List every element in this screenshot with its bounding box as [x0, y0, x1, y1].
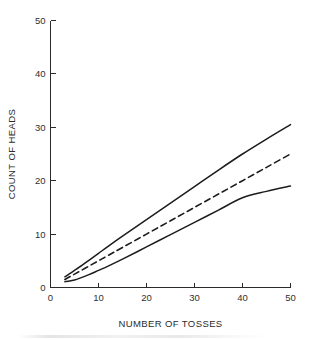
x-tick-label-10: 10 — [93, 292, 104, 303]
y-axis-title: COUNT OF HEADS — [6, 109, 17, 199]
y-tick-label-0: 0 — [40, 282, 45, 293]
x-tick-label-30: 30 — [189, 292, 200, 303]
series-upper-bound — [65, 125, 291, 277]
line-chart: 0102030405001020304050NUMBER OF TOSSESCO… — [0, 0, 334, 340]
series-expected-value — [65, 154, 291, 279]
x-tick-label-20: 20 — [141, 292, 152, 303]
y-tick-label-20: 20 — [35, 175, 46, 186]
x-tick-label-40: 40 — [237, 292, 248, 303]
x-tick-label-50: 50 — [285, 292, 296, 303]
x-tick-label-0: 0 — [48, 292, 53, 303]
chart-figure: 0102030405001020304050NUMBER OF TOSSESCO… — [0, 0, 334, 340]
y-tick-label-40: 40 — [35, 68, 46, 79]
series-lower-bound — [65, 186, 291, 282]
y-tick-label-10: 10 — [35, 229, 46, 240]
y-tick-label-50: 50 — [35, 15, 46, 26]
x-axis-title: NUMBER OF TOSSES — [118, 318, 222, 329]
y-tick-label-30: 30 — [35, 122, 46, 133]
